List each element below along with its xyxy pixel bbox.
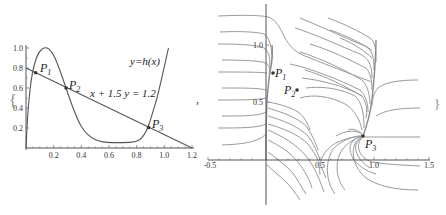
fixed-point-p2-label: P2 [283, 83, 295, 99]
point-p2-marker [64, 86, 68, 90]
fixed-point-p3-label: P3 [364, 137, 376, 153]
left-x-tick-label: 1.2 [187, 151, 197, 160]
constraint-line [26, 68, 192, 148]
separator-comma: , [196, 92, 199, 106]
left-y-tick-label: 0.2 [13, 124, 23, 133]
right-x-tick-label: 1.5 [424, 161, 434, 170]
curve-label: y=h(x) [129, 55, 160, 68]
left-x-tick-label: 0.8 [132, 151, 142, 160]
right-x-tick-label: -0.5 [204, 161, 217, 170]
streamlines [218, 15, 420, 200]
left-x-tick-label: 0.2 [49, 151, 59, 160]
figure-canvas: 0.2 0.4 0.6 0.8 1.0 1.2 0.2 0.4 0.6 0.8 … [0, 0, 446, 215]
point-p1-marker [34, 71, 38, 75]
line-equation-label: x + 1.5 y = 1.2 [89, 87, 156, 99]
point-p2-label: P2 [68, 78, 80, 94]
right-y-tick-label: 0.5 [253, 98, 263, 107]
fixed-point-p1-label: P1 [274, 66, 286, 82]
point-p3-label: P3 [151, 117, 163, 133]
fixed-point-p2-marker [295, 88, 299, 92]
point-p3-marker [147, 126, 151, 130]
left-x-tick-label: 1.0 [159, 151, 169, 160]
right-plot: -0.5 0.5 1.0 1.5 0.5 1.0 P1 P2 P3 } [204, 4, 441, 205]
left-y-tick-label: 1.0 [13, 44, 23, 53]
left-plot: 0.2 0.4 0.6 0.8 1.0 1.2 0.2 0.4 0.6 0.8 … [9, 44, 197, 160]
left-x-tick-label: 0.4 [76, 151, 86, 160]
right-x-tick-label: 0.5 [315, 161, 325, 170]
right-y-tick-label: 1.0 [253, 41, 263, 50]
left-x-tick-label: 0.6 [104, 151, 114, 160]
right-x-tick-label: 1.0 [369, 161, 379, 170]
left-brace: { [9, 92, 17, 109]
point-p1-label: P1 [39, 61, 51, 77]
right-brace: } [434, 96, 440, 111]
left-y-tick-label: 0.8 [13, 64, 23, 73]
